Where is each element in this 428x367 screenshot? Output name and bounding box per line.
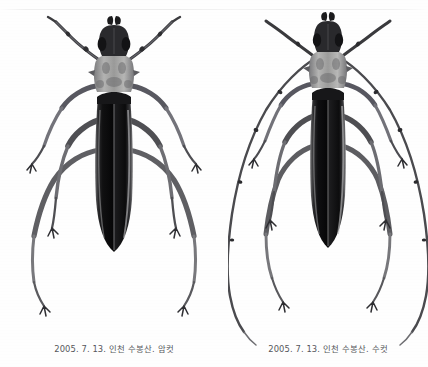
document-page: 2005. 7. 13. 인천 수봉산. 암컷 (0, 0, 428, 367)
beetle-male-photo (228, 0, 428, 367)
figure-plate-female: 2005. 7. 13. 인천 수봉산. 암컷 (0, 0, 228, 367)
beetle-female-photo (0, 0, 228, 340)
figure-plate-male: 2005. 7. 13. 인천 수봉산. 수컷 (228, 0, 428, 367)
figure-caption-male: 2005. 7. 13. 인천 수봉산. 수컷 (228, 342, 428, 354)
figure-caption-female: 2005. 7. 13. 인천 수봉산. 암컷 (0, 342, 228, 354)
